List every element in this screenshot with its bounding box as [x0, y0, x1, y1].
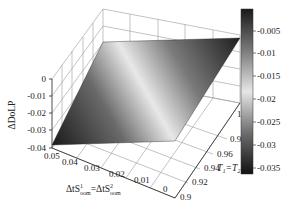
y-tick: 0.92: [192, 177, 208, 187]
colorbar-tick: -0.02: [257, 94, 276, 104]
x-tick: 0: [163, 184, 168, 194]
x-tick: 0.01: [134, 175, 150, 185]
y-tick: 0.96: [217, 149, 233, 159]
x-tick: 0.05: [44, 151, 60, 161]
z-tick: -0.03: [27, 125, 46, 135]
colorbar-tick: -0.025: [257, 117, 281, 127]
colorbar-tick: -0.01: [257, 48, 276, 58]
y-axis-label: T₁=T₂: [217, 163, 241, 173]
z-tick: -0.01: [27, 91, 46, 101]
x-tick: 0.03: [84, 163, 100, 173]
x-axis-label: ΔtS1oom=ΔtS2oom: [66, 183, 121, 196]
colorbar-tick: -0.03: [257, 140, 276, 150]
z-tick: -0.02: [27, 108, 46, 118]
x-tick: 0.02: [109, 169, 125, 179]
colorbar-tick: -0.015: [257, 71, 281, 81]
x-tick: 0.04: [62, 157, 78, 167]
surface: [52, 38, 240, 145]
colorbar-tick: -0.035: [257, 163, 281, 173]
surface-plot: 0 -0.01 -0.02 -0.03 -0.04 ΔDoLP 0.05 0.0…: [0, 0, 293, 202]
colorbar: -0.005 -0.01 -0.015 -0.02 -0.025 -0.03 -…: [241, 9, 281, 174]
z-tick: 0: [42, 74, 47, 84]
y-tick: 0.9: [180, 192, 192, 202]
z-axis: 0 -0.01 -0.02 -0.03 -0.04 ΔDoLP: [7, 74, 52, 153]
colorbar-tick: -0.005: [257, 26, 281, 36]
z-axis-label: ΔDoLP: [7, 101, 17, 130]
